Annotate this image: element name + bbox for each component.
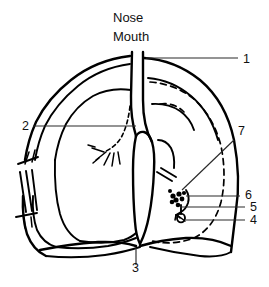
- label-callout-2: 2: [22, 119, 29, 133]
- label-callout-5: 5: [250, 200, 257, 214]
- respiratory-diagram-figure: Nose Mouth 1 2 3 4 5 6 7: [0, 0, 269, 287]
- respiratory-system-illustration: Nose Mouth 1 2 3 4 5 6 7: [0, 0, 269, 287]
- label-callout-7: 7: [238, 124, 245, 138]
- label-callout-3: 3: [132, 261, 139, 275]
- label-mouth: Mouth: [113, 29, 149, 44]
- label-callout-4: 4: [250, 213, 257, 227]
- label-callout-6: 6: [245, 188, 252, 202]
- label-callout-1: 1: [243, 52, 250, 66]
- label-nose: Nose: [113, 10, 143, 25]
